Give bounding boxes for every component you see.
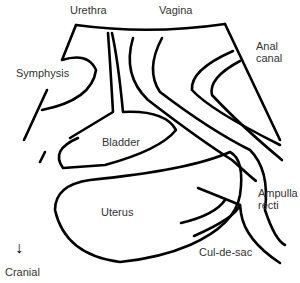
label-cul-de-sac: Cul-de-sac — [199, 246, 252, 258]
top-boundary — [76, 24, 225, 30]
label-anal-canal-1: Anal — [256, 40, 278, 52]
label-uterus: Uterus — [101, 206, 133, 218]
uterus-inner-fold — [181, 200, 225, 223]
label-vagina: Vagina — [159, 4, 192, 16]
label-anal-canal-2: canal — [256, 52, 282, 64]
anatomy-diagram — [0, 0, 300, 283]
rectum-line-2 — [212, 61, 282, 160]
label-symphysis: Symphysis — [16, 67, 69, 79]
label-urethra: Urethra — [70, 4, 107, 16]
cul-de-sac-line-2 — [198, 188, 240, 205]
symphysis-lower-line — [24, 90, 47, 162]
rectum-line-1 — [192, 51, 280, 145]
label-bladder: Bladder — [102, 136, 140, 148]
label-ampulla-1: Ampulla — [258, 187, 298, 199]
vagina-line-2 — [153, 38, 285, 245]
label-ampulla-2: recti — [258, 199, 279, 211]
label-cranial: Cranial — [5, 266, 40, 278]
cranial-arrow-icon: ↓ — [15, 240, 23, 256]
